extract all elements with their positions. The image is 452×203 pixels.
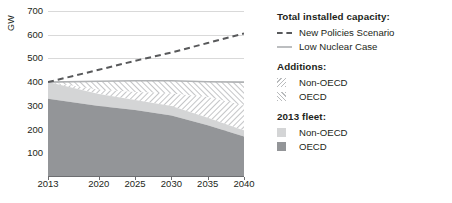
legend-item-new-policies-scenario[interactable]: New Policies Scenario [277, 25, 449, 39]
plot-area [48, 11, 244, 177]
slash-hatch-swatch-icon [277, 92, 286, 101]
legend-item-additions-nonoecd[interactable]: Non-OECD [277, 75, 449, 89]
y-tick-500: 500 [27, 54, 43, 64]
legend-group-title: 2013 fleet: [277, 111, 449, 122]
legend-group-total-installed-capacity: Total installed capacity: New Policies S… [277, 11, 449, 53]
line-new-policies-scenario [48, 34, 244, 83]
x-tick-2040: 2040 [233, 179, 254, 189]
stacked-area-series [48, 11, 244, 177]
legend-group-title: Total installed capacity: [277, 11, 449, 22]
x-axis-tick-labels: 2013 2020 2025 2030 2035 2040 [0, 179, 452, 195]
backslash-hatch-swatch-icon [277, 78, 286, 87]
y-tick-300: 300 [27, 101, 43, 111]
chart-figure: GW 700 600 500 400 300 200 100 [0, 0, 452, 203]
y-tick-100: 100 [27, 149, 43, 159]
legend-item-fleet-nonoecd[interactable]: Non-OECD [277, 125, 449, 139]
legend-item-low-nuclear-case[interactable]: Low Nuclear Case [277, 39, 449, 53]
y-tick-700: 700 [27, 6, 43, 16]
y-tick-400: 400 [27, 77, 43, 87]
x-tick-2030: 2030 [161, 179, 182, 189]
x-tick-2020: 2020 [88, 179, 109, 189]
legend-item-label: OECD [299, 141, 327, 152]
legend-group-title: Additions: [277, 61, 449, 72]
chart-legend: Total installed capacity: New Policies S… [277, 11, 449, 153]
legend-item-additions-oecd[interactable]: OECD [277, 89, 449, 103]
solid-line-swatch-icon [277, 41, 292, 52]
dashed-line-swatch-icon [277, 27, 292, 38]
legend-group-2013-fleet: 2013 fleet: Non-OECD OECD [277, 111, 449, 153]
legend-item-label: Non-OECD [299, 77, 348, 88]
dark-gray-box-swatch-icon [277, 142, 286, 151]
x-axis-line [48, 176, 244, 177]
x-tick-2013: 2013 [37, 179, 58, 189]
legend-item-label: OECD [299, 91, 327, 102]
y-axis-tick-labels: 700 600 500 400 300 200 100 [0, 11, 48, 177]
legend-item-fleet-oecd[interactable]: OECD [277, 139, 449, 153]
legend-item-label: New Policies Scenario [299, 27, 394, 38]
legend-group-additions: Additions: Non-OECD OECD [277, 61, 449, 103]
light-gray-box-swatch-icon [277, 128, 286, 137]
y-tick-200: 200 [27, 125, 43, 135]
x-tick-2025: 2025 [125, 179, 146, 189]
y-tick-600: 600 [27, 30, 43, 40]
x-tick-2035: 2035 [197, 179, 218, 189]
legend-item-label: Non-OECD [299, 127, 348, 138]
legend-item-label: Low Nuclear Case [299, 41, 377, 52]
